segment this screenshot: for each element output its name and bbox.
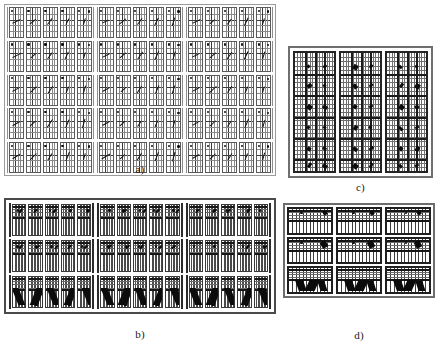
grid-line-horizontal [62,209,74,210]
grid-line-vertical [265,76,266,105]
response-dot [230,245,232,247]
cap-line [62,217,74,219]
cap-line [46,217,58,219]
grid-line-vertical [197,109,198,138]
grid-line-vertical [265,109,266,138]
corner-blob [61,10,63,12]
corner-blob [168,43,170,45]
panel-b-cell [254,204,268,236]
grid-line-vertical [248,8,249,37]
cap-line [190,253,202,255]
panel-b-row [9,203,271,237]
grid-line-vertical [35,42,36,71]
panel-c-column [293,51,336,173]
response-dot [193,245,195,247]
grid-line-vertical [248,42,249,71]
panel-a-cell [222,41,237,72]
grid-line-vertical [231,76,232,105]
grid-line-vertical [217,8,218,37]
grid-line-horizontal [100,31,113,32]
grid-line-horizontal [387,274,429,275]
grid-line-horizontal [117,132,130,133]
grid-line-vertical [80,42,81,71]
panel-b-cell [133,276,147,308]
grid-line-horizontal [62,284,74,285]
grid-line-vertical [18,109,19,138]
panel-a-cell [239,7,254,38]
grid-line-horizontal [222,245,234,246]
grid-line-horizontal [78,132,91,133]
panel-a-group [7,75,94,106]
panel-b-cell [237,204,251,236]
grid-line-horizontal [166,281,178,282]
cap-line [150,278,162,280]
cap-line [62,253,74,255]
panel-a-cell [43,41,58,72]
cap-line [255,278,267,280]
grid-line-horizontal [134,65,147,66]
grid-line-vertical [37,42,38,71]
panel-b-cell [221,240,235,272]
grid-line-horizontal [206,245,218,246]
grid-line-horizontal [44,99,57,100]
corner-blob [168,10,170,12]
panel-b-group [186,203,271,237]
grid-line-horizontal [387,218,429,219]
panel-a-cell [256,7,271,38]
panel-d-cell [287,266,333,294]
cap-line [101,253,113,255]
response-dot [213,245,215,247]
grid-line-horizontal [29,284,41,285]
grid-line-horizontal [206,132,219,133]
grid-line-vertical [231,8,232,37]
grid-line-vertical [69,76,70,105]
panel-b-cell [77,204,91,236]
grid-line-vertical [69,8,70,37]
grid-line-vertical [217,42,218,71]
grid-line-vertical [35,76,36,105]
panel-a-group [97,7,184,38]
grid-line-vertical [127,109,128,138]
panel-b-cell [133,240,147,272]
panel-d-cell [287,207,333,235]
cap-line [118,206,130,208]
panel-b-cell [149,276,163,308]
panel-b-cell [205,204,219,236]
cap-line [222,206,234,208]
grid-line-horizontal [387,215,429,216]
cap-line [190,217,202,219]
grid-line-vertical [251,42,252,71]
panel-a-cell [26,41,41,72]
panel-a-cell [166,75,181,106]
corner-blob [224,10,226,12]
panel-a-group [97,75,184,106]
cap-line [222,278,234,280]
panel-b-group [9,239,94,273]
grid-line-horizontal [255,284,267,285]
separator-horizontal [295,159,334,161]
grid-line-vertical [119,76,120,105]
panel-a-cell [9,41,24,72]
cap-line [134,206,146,208]
grid-line-horizontal [100,65,113,66]
grid-line-vertical [214,109,215,138]
panel-b: b) [4,198,276,353]
panel-a-cell [77,41,92,72]
grid-line-vertical [170,109,171,138]
cap-line [13,242,25,244]
grid-line-vertical [226,76,227,105]
cap-line [62,206,74,208]
grid-line-horizontal [206,65,219,66]
grid-line-vertical [243,76,244,105]
panel-b-cell [165,204,179,236]
panel-a-cell [99,108,114,139]
cap-line [134,242,146,244]
grid-line-vertical [158,109,159,138]
separator-vertical [315,53,317,171]
grid-line-vertical [86,76,87,105]
grid-line-vertical [161,76,162,105]
grid-line-horizontal [62,281,74,282]
grid-line-horizontal [338,272,380,273]
grid-line-vertical [80,109,81,138]
grid-line-vertical [71,42,72,71]
